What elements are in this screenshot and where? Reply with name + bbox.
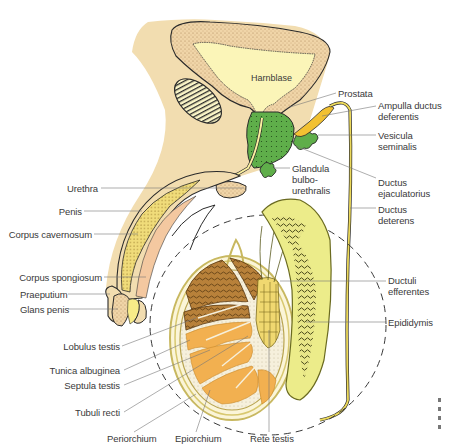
label-corpus-cavernosum: Corpus cavernosum <box>9 229 92 240</box>
label-vesicula-seminalis: Vesicula seminalis <box>378 130 417 152</box>
label-tubuli-recti: Tubuli recti <box>75 407 120 418</box>
label-periorchium: Periorchium <box>107 433 157 444</box>
label-septula-testis: Septula testis <box>64 380 120 391</box>
label-rete-testis: Rete testis <box>250 433 294 444</box>
prostate <box>247 112 294 168</box>
label-prostata: Prostata <box>338 88 373 99</box>
label-epiorchium: Epiorchium <box>175 433 222 444</box>
label-ampulla-ductus-deferentis: Ampulla ductus deferentis <box>378 100 442 122</box>
label-tunica-albuginea: Tunica albuginea <box>50 365 120 376</box>
label-corpus-spongiosum: Corpus spongiosum <box>19 272 102 283</box>
label-glans-penis: Glans penis <box>20 304 69 315</box>
label-urethra: Urethra <box>67 183 98 194</box>
label-ductus-deferens: Ductus deterens <box>378 204 414 226</box>
label-lobulus-testis: Lobulus testis <box>63 341 120 352</box>
label-harnblase: Harnblase <box>251 73 292 83</box>
label-ductuli-efferentes: Ductuli efferentes <box>388 275 429 297</box>
label-glandula-bulbourethralis: Glandula bulbo- urethralis <box>292 163 330 196</box>
label-praeputium: Praeputium <box>20 289 68 300</box>
label-epididymis: Epididymis <box>388 317 433 328</box>
label-penis: Penis <box>59 206 82 217</box>
label-ductus-ejaculatorius: Ductus ejaculatorius <box>378 177 430 199</box>
cropped-edge-text-fragment <box>438 398 444 438</box>
